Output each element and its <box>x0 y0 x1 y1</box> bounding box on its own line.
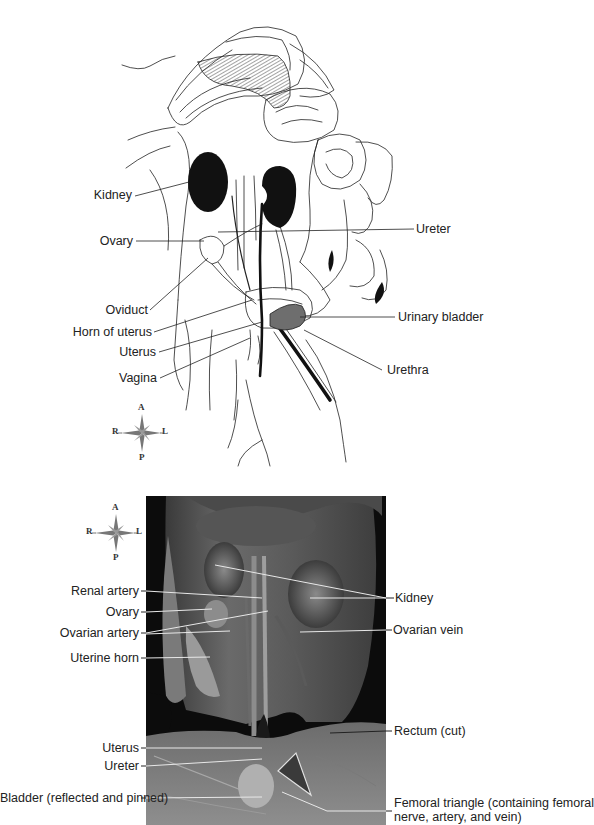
left-kidney-shape <box>262 166 296 228</box>
label-ovarian-artery: Ovarian artery <box>20 626 139 640</box>
label-urinary-bladder: Urinary bladder <box>398 310 483 324</box>
label-kidney: Kidney <box>70 188 132 202</box>
label-uterine-horn: Uterine horn <box>20 651 139 665</box>
label-horn-of-uterus: Horn of uterus <box>40 325 152 339</box>
label-vagina: Vagina <box>70 371 157 385</box>
right-kidney-shape <box>188 152 228 212</box>
label-femoral-triangle-line2: nerve, artery, and vein) <box>394 810 522 824</box>
label-photo-uterus: Uterus <box>40 741 139 755</box>
label-photo-ureter: Ureter <box>40 759 139 773</box>
compass-rose-photo: A R L P <box>86 502 146 566</box>
label-ureter: Ureter <box>416 222 451 236</box>
label-renal-artery: Renal artery <box>40 584 139 598</box>
label-oviduct: Oviduct <box>70 303 148 317</box>
label-rectum-cut: Rectum (cut) <box>394 724 466 738</box>
compass-rose-drawing: A R L P <box>112 402 172 466</box>
label-bladder-reflected: Bladder (reflected and pinned) <box>0 791 139 805</box>
compass-star-icon <box>112 402 172 466</box>
label-femoral-triangle-line1: Femoral triangle (containing femoral <box>394 796 594 810</box>
label-photo-ovary: Ovary <box>40 605 139 619</box>
compass-star-icon <box>86 502 146 566</box>
label-photo-kidney: Kidney <box>395 591 433 605</box>
label-ovarian-vein: Ovarian vein <box>393 623 463 637</box>
label-ovary: Ovary <box>70 234 133 248</box>
dissection-photograph <box>146 496 386 825</box>
label-urethra: Urethra <box>387 363 429 377</box>
label-uterus: Uterus <box>70 345 156 359</box>
